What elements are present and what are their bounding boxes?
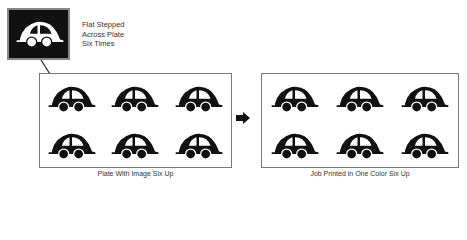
car-icon xyxy=(400,82,450,112)
job-cell xyxy=(262,74,327,121)
job-cell xyxy=(327,121,392,168)
plate-cell xyxy=(40,74,104,121)
printed-job-six-up xyxy=(261,73,459,168)
plate-cell xyxy=(40,121,104,168)
printed-job-label: Job Printed in One Color Six Up xyxy=(261,170,459,177)
plate-cell xyxy=(104,74,168,121)
arrow-right-icon xyxy=(236,112,250,124)
plate-label: Plate With Image Six Up xyxy=(39,170,232,177)
plate-cell xyxy=(167,121,231,168)
car-icon xyxy=(47,129,97,159)
car-icon xyxy=(270,129,320,159)
car-icon xyxy=(335,82,385,112)
plate-six-up xyxy=(39,73,232,168)
car-icon xyxy=(335,129,385,159)
job-cell xyxy=(393,74,458,121)
job-cell xyxy=(327,74,392,121)
car-icon xyxy=(270,82,320,112)
car-icon xyxy=(174,82,224,112)
car-icon xyxy=(47,82,97,112)
car-icon xyxy=(174,129,224,159)
car-icon xyxy=(400,129,450,159)
car-icon xyxy=(110,129,160,159)
job-cell xyxy=(393,121,458,168)
car-icon xyxy=(110,82,160,112)
job-cell xyxy=(262,121,327,168)
plate-cell xyxy=(167,74,231,121)
plate-cell xyxy=(104,121,168,168)
